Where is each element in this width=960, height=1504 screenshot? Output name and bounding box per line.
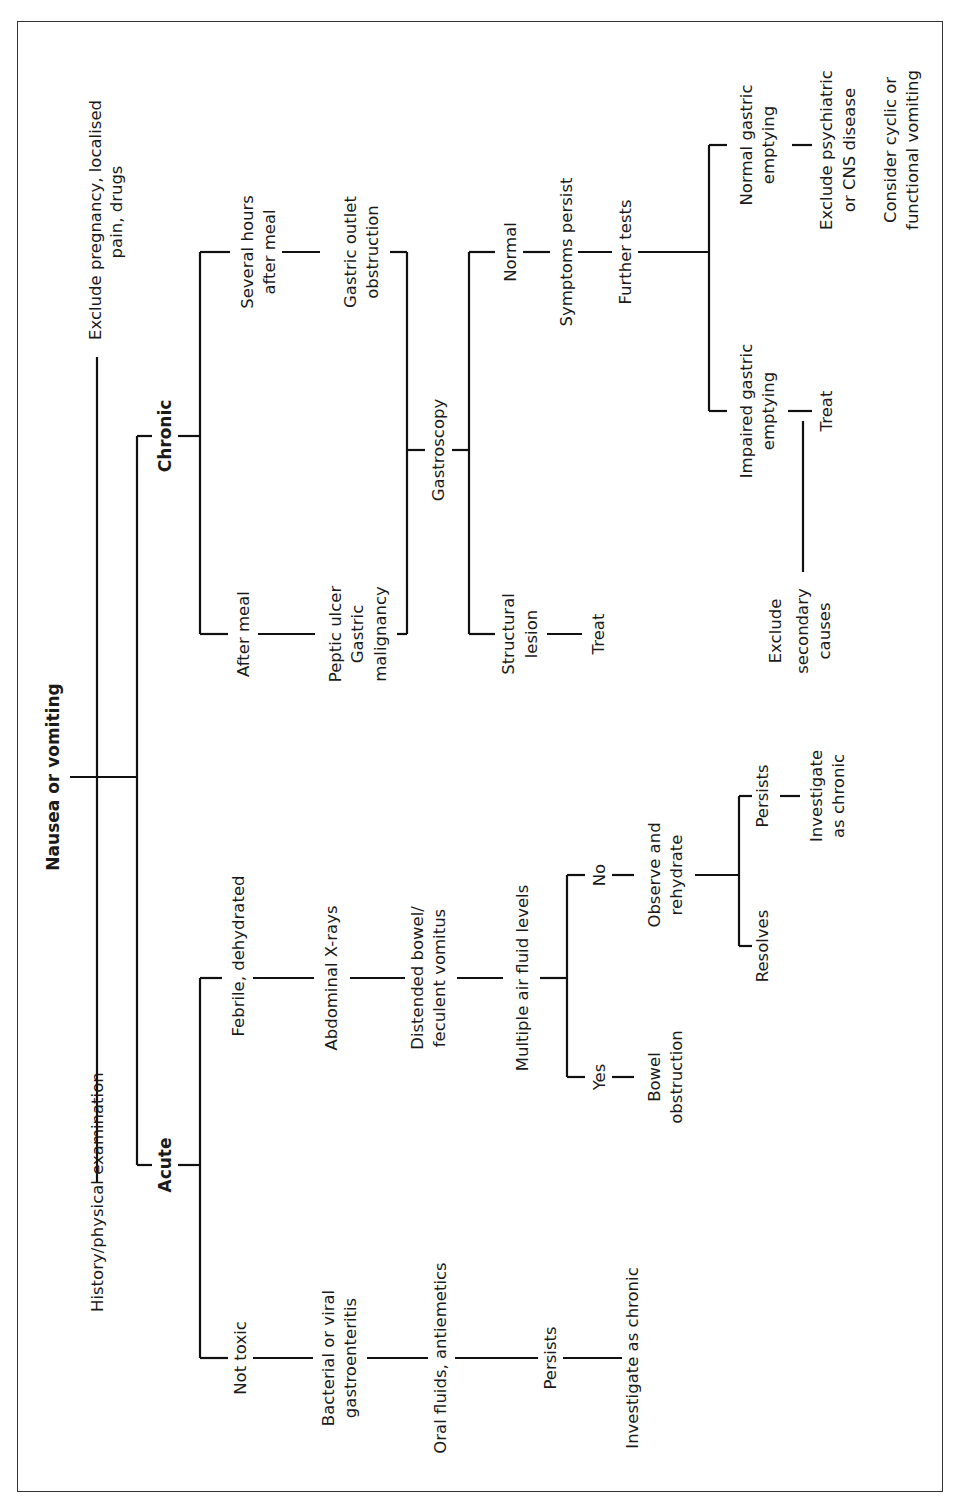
node-further-tests: Further tests <box>616 199 635 304</box>
node-symptoms-persist: Symptoms persist <box>557 177 576 326</box>
connector-lines <box>70 145 812 1358</box>
node-gastroscopy: Gastroscopy <box>429 399 448 502</box>
node-consider-cyclic-l1: Consider cyclic or <box>881 77 900 223</box>
node-gastric-outlet-l1: Gastric outlet <box>341 196 360 308</box>
node-after-meal: After meal <box>234 591 253 677</box>
node-several-hours-l2: after meal <box>260 209 279 294</box>
node-structural-l2: lesion <box>522 610 541 658</box>
node-several-hours-l1: Several hours <box>238 195 257 309</box>
node-gastric: Gastric <box>348 605 367 663</box>
node-febrile-dehydrated: Febrile, dehydrated <box>229 875 248 1036</box>
node-nausea-vomiting: Nausea or vomiting <box>43 683 63 870</box>
node-acute: Acute <box>155 1138 175 1193</box>
node-normal: Normal <box>501 222 520 282</box>
node-treat-structural: Treat <box>589 613 608 655</box>
node-distended-bowel-l1: Distended bowel/ <box>408 906 427 1050</box>
node-exclude-psychiatric-l1: Exclude psychiatric <box>817 70 836 230</box>
node-abdominal-xrays: Abdominal X-rays <box>322 905 341 1050</box>
node-no: No <box>590 864 609 886</box>
node-exclude-pregnancy-l2: pain, drugs <box>107 166 126 259</box>
node-persists-not-toxic: Persists <box>541 1326 560 1389</box>
node-investigate-chronic-b: Investigate as chronic <box>623 1267 642 1448</box>
node-bacterial-viral-l2: gastroenteritis <box>341 1298 360 1418</box>
node-investigate-chronic-a-l1: Investigate <box>807 750 826 842</box>
node-malignancy: malignancy <box>371 586 390 682</box>
node-not-toxic: Not toxic <box>231 1321 250 1395</box>
node-exclude-pregnancy-l1: Exclude pregnancy, localised <box>86 100 105 340</box>
node-observe-rehydrate-l2: rehydrate <box>667 835 686 916</box>
node-yes: Yes <box>590 1064 609 1092</box>
node-peptic-ulcer: Peptic ulcer <box>326 586 345 683</box>
node-impaired-gastric-emptying-l2: emptying <box>759 372 778 450</box>
node-observe-rehydrate-l1: Observe and <box>645 822 664 927</box>
node-exclude-secondary-l2: secondary <box>793 588 812 674</box>
node-exclude-psychiatric-l2: or CNS disease <box>840 88 859 212</box>
node-normal-gastric-emptying-l2: emptying <box>759 106 778 184</box>
node-bowel-obstruction-l1: Bowel <box>645 1052 664 1102</box>
node-impaired-gastric-emptying-l1: Impaired gastric <box>737 344 756 479</box>
node-gastric-outlet-l2: obstruction <box>363 205 382 299</box>
flowchart: Nausea or vomiting History/physical exam… <box>0 0 960 1504</box>
node-investigate-chronic-a-l2: as chronic <box>829 754 848 838</box>
node-treat-impaired: Treat <box>817 390 836 432</box>
node-consider-cyclic-l2: functional vomiting <box>903 70 922 230</box>
node-exclude-secondary-l1: Exclude <box>766 599 785 664</box>
node-chronic: Chronic <box>155 400 175 473</box>
node-structural-l1: Structural <box>499 593 518 675</box>
node-oral-fluids: Oral fluids, antiemetics <box>431 1262 450 1453</box>
node-multiple-air-fluid: Multiple air fluid levels <box>513 885 532 1072</box>
node-bowel-obstruction-l2: obstruction <box>667 1030 686 1124</box>
node-persists-acute: Persists <box>753 764 772 827</box>
node-distended-bowel-l2: feculent vomitus <box>430 909 449 1047</box>
node-exclude-secondary-l3: causes <box>815 603 834 660</box>
node-normal-gastric-emptying-l1: Normal gastric <box>737 84 756 205</box>
node-history-exam: History/physical examination <box>88 1072 107 1312</box>
node-labels: Nausea or vomiting History/physical exam… <box>43 70 922 1454</box>
node-resolves: Resolves <box>753 910 772 983</box>
node-bacterial-viral-l1: Bacterial or viral <box>319 1290 338 1426</box>
